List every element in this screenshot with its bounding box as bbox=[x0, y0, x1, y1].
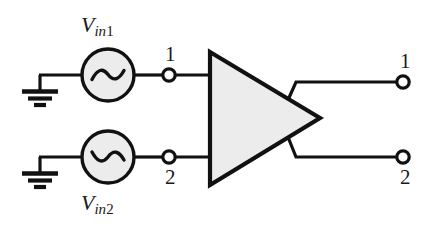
source-label-vin1-sub-num: 1 bbox=[106, 23, 114, 39]
ground-symbol-2 bbox=[22, 157, 58, 187]
circuit-diagram: Vin1 Vin2 1 2 1 2 bbox=[0, 0, 425, 228]
input-terminal-1-node[interactable] bbox=[163, 69, 175, 81]
source-label-vin2-v: V bbox=[81, 190, 94, 215]
ac-source-vin2 bbox=[82, 131, 134, 183]
ac-source-vin1 bbox=[82, 49, 134, 101]
source-label-vin1: Vin1 bbox=[81, 14, 114, 36]
source-label-vin1-v: V bbox=[81, 12, 94, 37]
input-terminal-2-node[interactable] bbox=[163, 151, 175, 163]
output-terminal-2-node[interactable] bbox=[397, 151, 409, 163]
ground-symbol-1 bbox=[22, 75, 58, 105]
output-terminal-2-label: 2 bbox=[400, 167, 411, 188]
input-terminal-2-label: 2 bbox=[165, 167, 176, 188]
output-terminal-1-label: 1 bbox=[400, 51, 411, 72]
source-label-vin2-sub-in: in bbox=[94, 201, 106, 217]
output-terminal-1-node[interactable] bbox=[397, 76, 409, 88]
input-terminal-1-label: 1 bbox=[165, 44, 176, 65]
amplifier-triangle[interactable] bbox=[210, 52, 320, 185]
source-label-vin1-sub-in: in bbox=[94, 23, 106, 39]
circuit-schematic-canvas bbox=[0, 0, 425, 228]
wire-amp-to-output-terminal1 bbox=[288, 82, 397, 100]
source-label-vin2: Vin2 bbox=[81, 192, 114, 214]
source-label-vin2-sub-num: 2 bbox=[106, 201, 114, 217]
wire-amp-to-output-terminal2 bbox=[288, 137, 397, 157]
